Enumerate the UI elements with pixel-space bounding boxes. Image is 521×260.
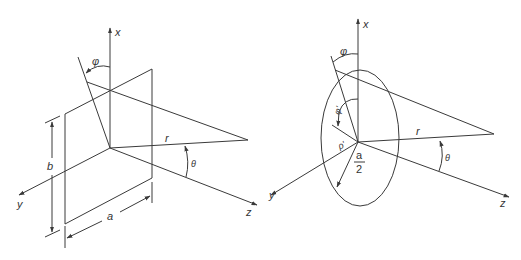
z-axis-label: z [499,197,506,209]
radius-numerator: a [356,149,363,161]
a-dimension-arrow-left [67,221,102,238]
theta-label: θ [191,159,196,169]
phi-label: φ [340,45,347,57]
r-label: r [165,132,170,144]
aperture-diagram: x y z φ θ r a b x y z φ φ' ρ' θ [0,0,521,260]
z-axis-label: z [245,206,252,218]
theta-arc [185,146,188,177]
circular-aperture-panel: x y z φ φ' ρ' θ r a 2 [268,18,509,209]
circular-aperture [321,70,399,206]
rho-prime-line [332,125,358,142]
b-dimension-label: b [47,160,53,172]
x-axis-label: x [114,26,121,38]
a-dimension-label: a [107,210,113,222]
r-vector [110,140,248,148]
r-vector [358,134,494,142]
y-axis [271,142,358,195]
a-dimension-arrow-right [120,196,150,212]
r-label: r [416,125,421,137]
z-axis [358,142,509,197]
z-axis [110,148,257,205]
radius-denominator: 2 [356,163,362,175]
phi-label: φ [92,55,99,67]
theta-label: θ [445,153,450,163]
rectangular-aperture-panel: x y z φ θ r a b [16,26,257,248]
projection-line [335,70,494,134]
b-extension-top [45,116,60,123]
y-axis-label: y [268,189,276,201]
y-axis-label: y [16,198,24,210]
phi-reference-line [78,57,110,148]
theta-arc [439,141,442,171]
x-axis-label: x [362,18,369,30]
